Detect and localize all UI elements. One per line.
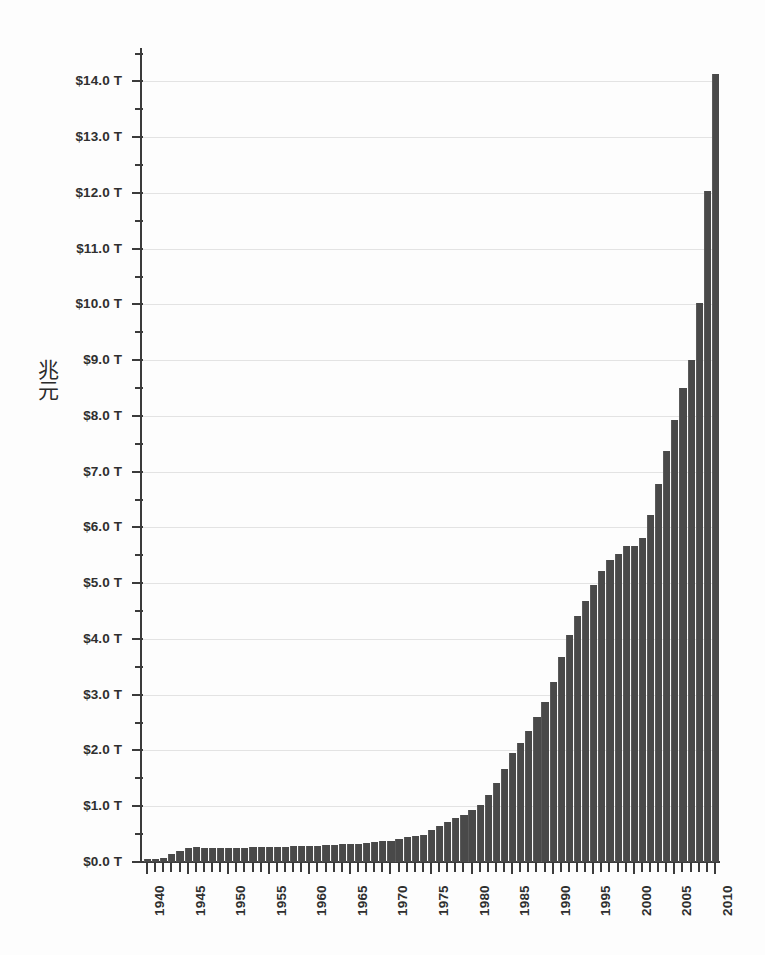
y-axis-major-tick — [132, 694, 143, 696]
x-axis-minor-tick — [487, 863, 489, 872]
y-axis-minor-tick — [135, 722, 143, 724]
x-axis-tick-label: 1970 — [395, 885, 410, 916]
x-axis-minor-tick — [195, 863, 197, 872]
bar — [282, 847, 289, 862]
bar — [566, 635, 573, 862]
gridline — [143, 304, 719, 305]
bar — [501, 769, 508, 862]
y-axis-tick-label: $0.0 T — [83, 854, 122, 869]
x-axis-minor-tick — [576, 863, 578, 872]
bar — [314, 846, 321, 862]
y-axis-major-tick — [132, 248, 143, 250]
bar — [404, 837, 411, 862]
x-axis-minor-tick — [365, 863, 367, 872]
bar — [493, 783, 500, 862]
x-axis-minor-tick — [373, 863, 375, 872]
bar — [525, 731, 532, 862]
x-axis-tick-label: 1985 — [517, 885, 532, 916]
bar — [144, 859, 151, 862]
y-axis-minor-tick — [135, 220, 143, 222]
x-axis-tick-label: 1995 — [598, 885, 613, 916]
bar — [339, 844, 346, 862]
y-axis-tick-label: $8.0 T — [83, 408, 122, 423]
bar — [550, 682, 557, 862]
chart-figure: 兆元 $0.0 T$1.0 T$2.0 T$3.0 T$4.0 T$5.0 T$… — [0, 0, 765, 955]
bar — [477, 805, 484, 862]
x-axis-minor-tick — [252, 863, 254, 872]
bar — [160, 858, 167, 862]
x-axis-tick-label: 1990 — [558, 885, 573, 916]
x-axis-minor-tick — [527, 863, 529, 872]
y-axis-major-tick — [132, 526, 143, 528]
gridline — [143, 137, 719, 138]
y-axis-major-tick — [132, 359, 143, 361]
bar — [274, 847, 281, 862]
x-axis-tick-label: 1950 — [233, 885, 248, 916]
y-axis-minor-tick — [135, 610, 143, 612]
bar — [395, 839, 402, 862]
x-axis-minor-tick — [341, 863, 343, 872]
gridline — [143, 472, 719, 473]
y-axis-tick-labels: $0.0 T$1.0 T$2.0 T$3.0 T$4.0 T$5.0 T$6.0… — [0, 48, 140, 868]
y-axis-tick-label: $14.0 T — [76, 73, 122, 88]
x-axis-minor-tick — [560, 863, 562, 872]
bar — [712, 74, 719, 862]
x-axis-minor-tick — [260, 863, 262, 872]
x-axis-minor-tick — [235, 863, 237, 872]
x-axis-minor-tick — [698, 863, 700, 872]
bar — [412, 836, 419, 862]
x-axis-minor-tick — [625, 863, 627, 872]
x-axis-minor-tick — [535, 863, 537, 872]
bar — [387, 841, 394, 862]
bar — [574, 616, 581, 862]
bar — [298, 846, 305, 862]
x-axis-minor-tick — [300, 863, 302, 872]
x-axis-minor-tick — [690, 863, 692, 872]
x-axis-minor-tick — [276, 863, 278, 872]
y-axis-minor-tick — [135, 387, 143, 389]
x-axis-minor-tick — [333, 863, 335, 872]
x-axis-minor-tick — [170, 863, 172, 872]
bar — [509, 753, 516, 862]
y-axis-major-tick — [132, 861, 143, 863]
gridline — [143, 527, 719, 528]
y-axis-minor-tick — [135, 666, 143, 668]
bar — [176, 851, 183, 862]
y-axis-major-tick — [132, 749, 143, 751]
x-axis-minor-tick — [292, 863, 294, 872]
x-axis-minor-tick — [608, 863, 610, 872]
y-axis-tick-label: $13.0 T — [76, 129, 122, 144]
y-axis-tick-label: $2.0 T — [83, 742, 122, 757]
bar — [655, 484, 662, 862]
bar — [533, 717, 540, 862]
x-axis-minor-tick — [600, 863, 602, 872]
bar — [558, 657, 565, 862]
y-axis-major-tick — [132, 415, 143, 417]
bar — [322, 845, 329, 862]
x-axis-tick-label: 2010 — [720, 885, 735, 916]
y-axis-major-tick — [132, 303, 143, 305]
bar — [688, 360, 695, 862]
bar — [679, 388, 686, 862]
bar — [355, 844, 362, 862]
bar — [671, 420, 678, 862]
x-axis-minor-tick — [641, 863, 643, 872]
bar — [663, 451, 670, 862]
x-axis-minor-tick — [154, 863, 156, 872]
x-axis-minor-tick — [406, 863, 408, 872]
gridline — [143, 416, 719, 417]
y-axis-minor-tick — [135, 108, 143, 110]
gridline — [143, 81, 719, 82]
gridline — [143, 193, 719, 194]
bar — [468, 810, 475, 862]
bar — [623, 546, 630, 862]
bar — [444, 822, 451, 862]
y-axis-minor-tick — [135, 53, 143, 55]
y-axis-major-tick — [132, 192, 143, 194]
y-axis-major-tick — [132, 805, 143, 807]
y-axis-minor-tick — [135, 499, 143, 501]
x-axis-tick-label: 1940 — [152, 885, 167, 916]
y-axis-tick-label: $7.0 T — [83, 464, 122, 479]
y-axis-tick-label: $9.0 T — [83, 352, 122, 367]
x-axis-minor-tick — [706, 863, 708, 872]
